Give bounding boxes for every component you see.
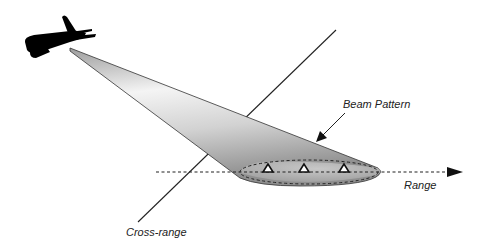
sar-diagram: [0, 0, 486, 250]
range-label: Range: [404, 179, 436, 191]
beam-pattern-label: Beam Pattern: [343, 98, 410, 110]
cross-range-label: Cross-range: [126, 226, 187, 238]
aircraft-icon: [25, 16, 96, 59]
beam-pattern-leader: [322, 113, 345, 136]
range-arrowhead-icon: [447, 167, 463, 177]
